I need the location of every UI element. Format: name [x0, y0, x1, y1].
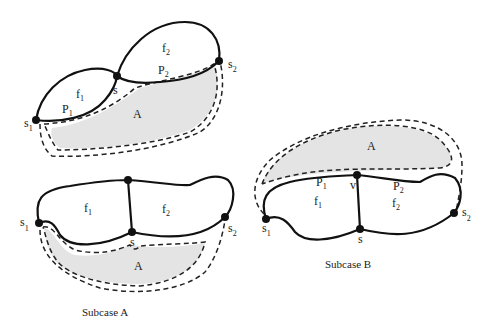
region-a-label: A — [367, 139, 376, 153]
node-s2-label: s2 — [462, 205, 471, 223]
node-s-label: s — [113, 83, 118, 97]
subcase-b-diagram: P1 P2 f1 f2 v s s1 s2 A Subcase B — [255, 120, 471, 270]
node-s2-label: s2 — [228, 57, 237, 74]
edge-middle — [357, 175, 360, 229]
subcase-a-caption: Subcase A — [82, 306, 128, 318]
edge-bottom-left — [266, 217, 360, 239]
edge-outer-top — [37, 177, 233, 223]
node-s2 — [215, 57, 223, 65]
face-f1-label: f1 — [84, 201, 92, 217]
edge-p2 — [357, 174, 461, 213]
face-f1-label: f1 — [314, 194, 322, 210]
node-s1-label: s1 — [20, 215, 29, 233]
node-v-label: v — [350, 178, 356, 192]
node-s2 — [221, 213, 229, 221]
face-f2-label: f2 — [392, 196, 400, 212]
region-a-label: A — [133, 107, 142, 121]
node-s1-label: s1 — [262, 221, 271, 238]
figure: f1 f2 P1 P2 s1 s s2 A f1 f2 s1 s s2 A Su… — [0, 0, 491, 331]
edge-middle — [128, 180, 132, 232]
path-p2-label: P2 — [158, 63, 169, 79]
top-diagram: f1 f2 P1 P2 s1 s s2 A — [24, 22, 237, 156]
face-f2-label: f2 — [162, 202, 170, 218]
node-s1 — [35, 219, 43, 227]
subcase-b-caption: Subcase B — [325, 258, 371, 270]
edge-p1 — [264, 175, 357, 219]
face-f2-label: f2 — [162, 41, 170, 57]
node-s-label: s — [130, 235, 135, 249]
edge-outer-bottom-right — [132, 217, 225, 237]
node-s1-label: s1 — [24, 116, 33, 133]
node-s2-label: s2 — [228, 221, 237, 238]
node-s2 — [450, 209, 458, 217]
subcase-a-diagram: f1 f2 s1 s s2 A Subcase A — [20, 176, 237, 318]
node-s — [113, 72, 121, 80]
path-p1-label: P1 — [62, 102, 73, 118]
node-s1 — [32, 116, 40, 124]
edge-bottom-right — [360, 213, 454, 234]
region-a-label: A — [134, 259, 143, 273]
node-s-label: s — [358, 232, 363, 246]
face-f1-label: f1 — [76, 87, 84, 103]
node-top — [124, 176, 132, 184]
